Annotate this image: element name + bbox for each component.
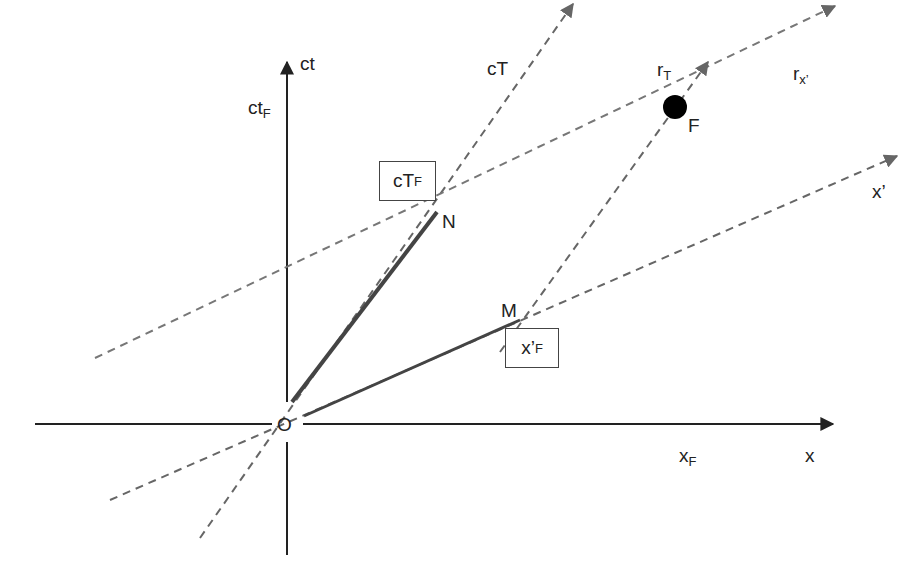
label-cT: cT (487, 59, 508, 78)
label-ct: ct (300, 54, 315, 73)
label-F: F (688, 116, 700, 135)
label-r-x-prime: rx’ (793, 64, 809, 86)
label-O: O (277, 415, 292, 434)
cT-axis (200, 4, 573, 538)
segment-ON (292, 212, 437, 402)
label-N: N (442, 212, 456, 231)
box-cT-F: cTF (379, 161, 436, 201)
segment-OM (304, 320, 520, 416)
label-ct-F: ctF (248, 98, 271, 120)
diagram-canvas (0, 0, 917, 582)
r-x-prime-line (95, 6, 835, 358)
box-x-prime-F: x’F (505, 328, 559, 368)
label-r-T: rT (657, 60, 671, 82)
label-x: x (805, 446, 815, 465)
label-M: M (501, 301, 517, 320)
label-x-prime: x’ (872, 182, 886, 201)
label-x-F: xF (679, 446, 696, 468)
event-F-dot (663, 95, 687, 119)
